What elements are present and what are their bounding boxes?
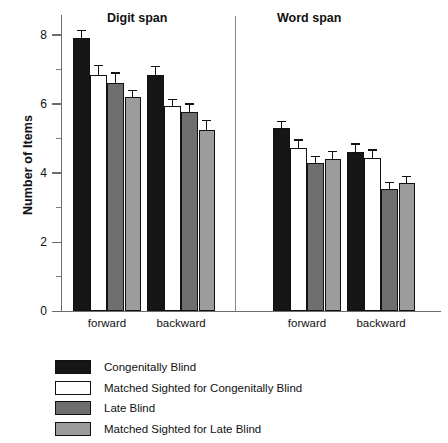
legend-label: Congenitally Blind xyxy=(104,361,196,373)
error-bar-stem xyxy=(298,139,299,148)
bar xyxy=(107,83,124,312)
error-bar-cap xyxy=(94,65,103,66)
group-label-digit-backward: backward xyxy=(131,317,231,329)
bar xyxy=(325,159,342,312)
error-bar-cap xyxy=(277,121,286,122)
error-bar-cap xyxy=(151,66,160,67)
bar xyxy=(364,158,381,312)
bar xyxy=(73,38,90,311)
error-bar-cap xyxy=(128,90,137,91)
legend-swatch-icon xyxy=(55,381,91,395)
legend-item: Matched Sighted for Late Blind xyxy=(55,419,435,440)
bar xyxy=(181,112,198,312)
error-bar-cap xyxy=(328,151,337,152)
error-bar-cap xyxy=(168,99,177,100)
error-bar-cap xyxy=(202,120,211,121)
error-bar-cap xyxy=(385,182,394,183)
legend-label: Late Blind xyxy=(104,402,155,414)
error-bar-cap xyxy=(111,72,120,73)
legend-swatch-icon xyxy=(55,360,91,374)
bar xyxy=(290,148,307,311)
bar xyxy=(125,97,142,311)
error-bar-cap xyxy=(77,30,86,31)
chart-legend: Congenitally BlindMatched Sighted for Co… xyxy=(55,357,435,439)
legend-item: Congenitally Blind xyxy=(55,357,435,378)
legend-item: Matched Sighted for Congenitally Blind xyxy=(55,378,435,399)
error-bar-stem xyxy=(355,143,356,152)
legend-label: Matched Sighted for Congenitally Blind xyxy=(104,382,302,394)
legend-swatch-icon xyxy=(55,401,91,415)
legend-item: Late Blind xyxy=(55,398,435,419)
error-bar-cap xyxy=(294,139,303,140)
group-label-word-backward: backward xyxy=(331,317,431,329)
bar xyxy=(90,75,107,312)
bar xyxy=(307,163,324,312)
error-bar-stem xyxy=(115,72,116,82)
bar xyxy=(147,75,164,312)
error-bar-cap xyxy=(368,149,377,150)
error-bar-stem xyxy=(98,65,99,75)
bar xyxy=(347,152,364,311)
bar xyxy=(381,189,398,312)
legend-label: Matched Sighted for Late Blind xyxy=(104,423,261,435)
legend-swatch-icon xyxy=(55,422,91,436)
error-bar-cap xyxy=(185,103,194,104)
error-bar-cap xyxy=(402,176,411,177)
bars-layer xyxy=(0,0,448,311)
error-bar-cap xyxy=(311,156,320,157)
bar xyxy=(273,128,290,311)
bar xyxy=(164,106,181,312)
bar-chart-figure: Number of Items 02468 Digit span Word sp… xyxy=(0,0,448,443)
error-bar-stem xyxy=(206,120,207,130)
bar xyxy=(199,130,216,311)
error-bar-cap xyxy=(351,143,360,144)
bar xyxy=(399,183,416,311)
